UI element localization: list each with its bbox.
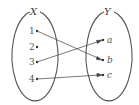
arrowhead-icon (97, 40, 103, 44)
x-element-1: 1 (29, 26, 35, 36)
arrow-3-to-a (37, 41, 100, 62)
arrowhead-icon (97, 73, 102, 76)
y-element-a: a (107, 35, 112, 45)
y-element-b: b (107, 55, 113, 65)
set-y: Y (86, 6, 132, 101)
x-element-3: 3 (29, 57, 35, 67)
x-element-4: 4 (29, 74, 35, 84)
set-y-label: Y (104, 6, 112, 17)
arrow-1-to-b (37, 31, 100, 59)
mapping-diagram: X Y 1 2 3 4 a b c (0, 0, 139, 105)
x-point-2 (36, 46, 38, 48)
y-element-c: c (107, 70, 112, 80)
x-element-2: 2 (29, 42, 35, 52)
set-x-label: X (29, 6, 38, 17)
arrow-4-to-c (37, 75, 100, 79)
set-x: X (12, 6, 58, 101)
arrowhead-icon (97, 57, 103, 61)
